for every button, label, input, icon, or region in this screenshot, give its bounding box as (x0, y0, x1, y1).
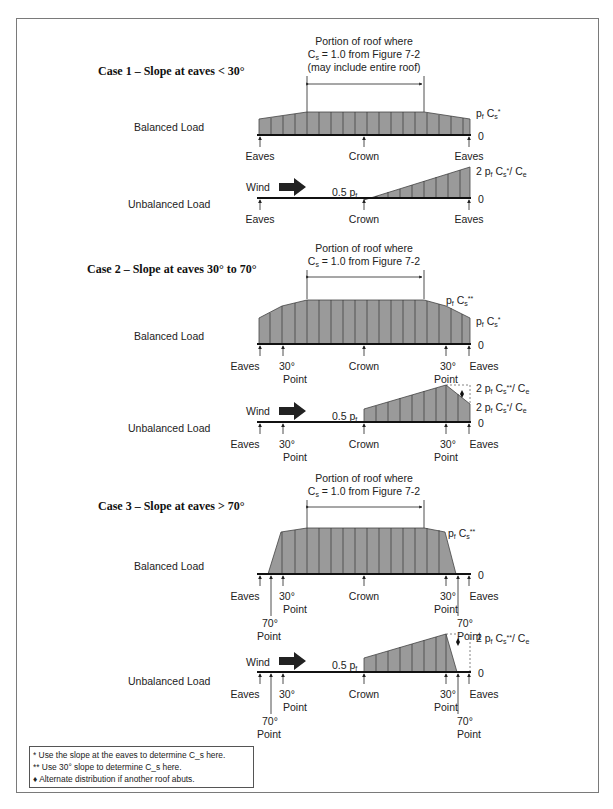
unbalanced-load-area (364, 167, 470, 200)
support-arrows (260, 200, 469, 210)
top-load-label: 2 pf Cs*/ Ce (476, 165, 527, 178)
case-1: Case 1 – Slope at eaves < 30° Portion of… (98, 35, 527, 225)
unbalanced-load-label: Unbalanced Load (128, 422, 210, 434)
case-2: Case 2 – Slope at eaves 30° to 70° Porti… (87, 242, 529, 463)
support-label-eaves-left: Eaves (245, 213, 274, 225)
support-label-70-left-point: Point (257, 728, 281, 740)
legend-item-single-star: * Use the slope at the eaves to determin… (33, 749, 250, 761)
zero-label: 0 (478, 193, 484, 205)
unbalanced-load-area (364, 385, 470, 422)
balanced-load-area (259, 112, 470, 135)
support-label-70-left-point: Point (257, 630, 281, 642)
support-label-70-right: 70° (457, 715, 473, 727)
crown-load-label: 0.5 pf (332, 659, 357, 672)
support-label-30-right-point: Point (434, 603, 458, 615)
support-label-eaves-left: Eaves (230, 590, 259, 602)
wind-arrow-icon (279, 178, 306, 196)
support-label-30-right: 30° (440, 360, 456, 372)
support-label-30-right-point: Point (434, 373, 458, 385)
legend-item-diamond: ♦ Alternate distribution if another roof… (33, 773, 250, 785)
support-label-eaves-right: Eaves (469, 360, 498, 372)
support-label-crown: Crown (349, 688, 380, 700)
crown-load-label: 0.5 pf (332, 186, 357, 199)
support-label-crown: Crown (349, 590, 380, 602)
balanced-load-label: Balanced Load (134, 330, 204, 342)
support-label-eaves-right: Eaves (454, 150, 483, 162)
support-label-30-left-point: Point (283, 701, 307, 713)
balanced-load-area (259, 300, 470, 344)
wind-label: Wind (246, 405, 270, 417)
case-3-title: Case 3 – Slope at eaves > 70° (98, 499, 245, 513)
zero-label: 0 (478, 667, 484, 679)
support-label-30-right: 30° (440, 438, 456, 450)
support-label-eaves-left: Eaves (230, 360, 259, 372)
balanced-load-label: Balanced Load (134, 560, 204, 572)
balanced-load-label: Balanced Load (134, 121, 204, 133)
bracket-note-line-1: Portion of roof where (315, 35, 413, 47)
support-label-crown: Crown (349, 150, 380, 162)
top-load-label: 2 pf Cs**/ Ce (476, 382, 529, 395)
unbalanced-load-area (364, 634, 457, 672)
support-label-crown: Crown (349, 438, 380, 450)
support-label-30-left: 30° (279, 688, 295, 700)
crown-load-label: 0.5 pf (332, 410, 357, 423)
support-label-30-left-point: Point (283, 603, 307, 615)
support-label-30-left: 30° (279, 590, 295, 602)
support-label-eaves-left: Eaves (245, 150, 274, 162)
zero-label: 0 (478, 417, 484, 429)
case-3: Case 3 – Slope at eaves > 70° Portion of… (98, 472, 529, 740)
zero-label: 0 (478, 339, 484, 351)
support-label-30-left: 30° (279, 438, 295, 450)
balanced-load-area (268, 528, 456, 574)
unbalanced-load-label: Unbalanced Load (128, 675, 210, 687)
support-label-30-left-point: Point (283, 373, 307, 385)
support-label-30-left: 30° (279, 360, 295, 372)
bracket-note-line-2: Cs = 1.0 from Figure 7-2 (308, 485, 421, 498)
support-label-70-left: 70° (262, 617, 278, 629)
case-1-title: Case 1 – Slope at eaves < 30° (98, 64, 245, 78)
support-arrows (260, 424, 469, 434)
support-label-eaves-right: Eaves (469, 590, 498, 602)
snow-load-diagram: Case 1 – Slope at eaves < 30° Portion of… (0, 0, 613, 809)
wind-arrow-icon (279, 652, 306, 670)
case-2-title: Case 2 – Slope at eaves 30° to 70° (87, 262, 257, 276)
support-label-30-right: 30° (440, 688, 456, 700)
support-label-crown: Crown (349, 360, 380, 372)
wind-label: Wind (246, 656, 270, 668)
support-label-crown: Crown (349, 213, 380, 225)
wind-label: Wind (246, 181, 270, 193)
top-load-label: 2 pf Cs**/ Ce (476, 632, 529, 645)
top-load-label: pf Cs** (446, 294, 474, 307)
support-arrows (260, 346, 469, 356)
unbalanced-load-label: Unbalanced Load (128, 198, 210, 210)
mid-load-label: 2 pf Cs*/ Ce (476, 401, 527, 414)
support-label-70-right-point: Point (457, 728, 481, 740)
top-load-label: pf Cs** (448, 527, 476, 540)
bracket-note-line-2: Cs = 1.0 from Figure 7-2 (308, 48, 421, 61)
support-label-30-right: 30° (440, 590, 456, 602)
support-label-70-right: 70° (457, 617, 473, 629)
support-label-eaves-right: Eaves (454, 213, 483, 225)
top-load-label: pf Cs* (476, 107, 501, 120)
support-label-eaves-left: Eaves (230, 438, 259, 450)
wind-arrow-icon (279, 402, 306, 420)
bracket-note-line-2: Cs = 1.0 from Figure 7-2 (308, 255, 421, 268)
bracket-note-line-1: Portion of roof where (315, 472, 413, 484)
legend-item-double-star: ** Use 30° slope to determine C_s here. (33, 761, 250, 773)
legend-box: * Use the slope at the eaves to determin… (29, 746, 254, 788)
zero-label: 0 (478, 569, 484, 581)
support-label-eaves-right: Eaves (469, 688, 498, 700)
support-label-eaves-right: Eaves (469, 438, 498, 450)
support-label-70-left: 70° (262, 715, 278, 727)
mid-load-label: pf Cs* (476, 315, 501, 328)
support-label-30-left-point: Point (283, 451, 307, 463)
support-label-30-right-point: Point (434, 451, 458, 463)
support-label-eaves-left: Eaves (230, 688, 259, 700)
zero-label: 0 (478, 130, 484, 142)
support-arrows (260, 137, 469, 147)
bracket-note-line-1: Portion of roof where (315, 242, 413, 254)
support-label-30-right-point: Point (434, 701, 458, 713)
bracket-note-line-3: (may include entire roof) (307, 61, 420, 73)
